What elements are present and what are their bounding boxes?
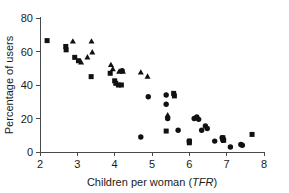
data-point-circle xyxy=(163,92,168,97)
data-point-circle xyxy=(205,126,210,131)
data-point-circle xyxy=(212,138,217,143)
y-tick-label-20: 20 xyxy=(21,113,33,125)
data-point-circle xyxy=(187,138,192,143)
y-tick-label-40: 40 xyxy=(21,79,33,91)
data-point-circle xyxy=(146,94,151,99)
x-tick-label-3: 3 xyxy=(74,158,80,170)
data-point-circle xyxy=(119,68,124,73)
data-markers xyxy=(45,38,255,150)
data-point-circle xyxy=(163,102,168,107)
y-tick-label-80: 80 xyxy=(21,12,33,24)
y-tick-label-0: 0 xyxy=(27,146,33,158)
x-tick-label-4: 4 xyxy=(112,158,118,170)
data-point-square xyxy=(108,71,113,76)
x-axis-title: Children per woman (TFR) xyxy=(87,176,217,188)
y-axis-title: Percentage of users xyxy=(3,35,15,134)
data-point-triangle xyxy=(89,49,95,54)
x-tick-label-5: 5 xyxy=(149,158,155,170)
data-point-square xyxy=(250,132,255,137)
data-point-triangle xyxy=(84,54,90,59)
data-point-triangle xyxy=(70,38,76,43)
data-point-circle xyxy=(240,143,245,148)
x-tick-label-2: 2 xyxy=(37,158,43,170)
y-tick-label-60: 60 xyxy=(21,46,33,58)
x-tick-label-8: 8 xyxy=(261,158,267,170)
data-point-square xyxy=(119,83,124,88)
data-point-circle xyxy=(220,138,225,143)
data-point-circle xyxy=(196,117,201,122)
x-tick-label-7: 7 xyxy=(224,158,230,170)
data-point-triangle xyxy=(108,62,114,67)
data-point-triangle xyxy=(89,38,95,43)
data-point-square xyxy=(164,129,169,134)
axes xyxy=(40,17,265,152)
data-point-circle xyxy=(138,134,143,139)
data-point-triangle xyxy=(138,69,144,74)
x-tick-label-6: 6 xyxy=(186,158,192,170)
data-point-square xyxy=(64,47,69,52)
data-point-square xyxy=(45,38,50,43)
data-point-circle xyxy=(199,128,204,133)
scatter-plot-figure: 0204060802345678 Children per woman (TFR… xyxy=(0,0,289,193)
data-point-triangle xyxy=(145,73,151,78)
data-point-circle xyxy=(175,128,180,133)
axis-titles: Children per woman (TFR)Percentage of us… xyxy=(3,35,217,188)
data-point-circle xyxy=(228,144,233,149)
plot-canvas: 0204060802345678 Children per woman (TFR… xyxy=(0,0,289,193)
data-point-circle xyxy=(165,116,170,121)
data-point-square xyxy=(89,74,94,79)
data-point-square xyxy=(172,93,177,98)
tick-marks xyxy=(36,18,264,156)
